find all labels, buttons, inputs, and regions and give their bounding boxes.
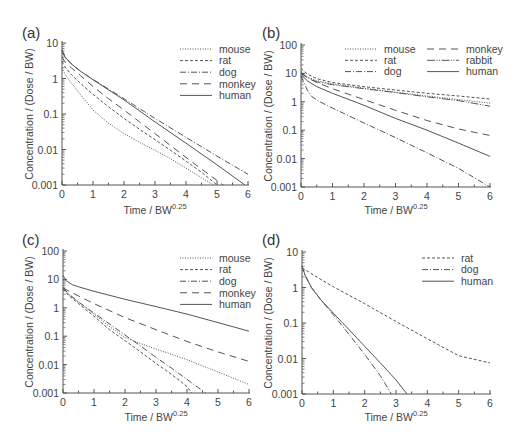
x-tick-label: 4 (184, 396, 190, 408)
curve-mouse (62, 68, 214, 185)
x-tick-label: 4 (183, 188, 189, 200)
axes-d: 01234561010.10.010.001 (272, 246, 493, 409)
legend-label-rat: rat (219, 54, 231, 66)
curve-human (301, 75, 490, 157)
x-tick-label: 0 (59, 188, 65, 200)
x-tick-label: 0 (298, 190, 304, 202)
x-tick-label: 1 (330, 190, 336, 202)
legend-label-human: human (466, 65, 498, 77)
y-tick-label: 0.001 (271, 181, 297, 193)
legend-label-monkey: monkey (466, 43, 504, 55)
legend-label-dog: dog (219, 66, 237, 78)
y-tick-label: 100 (41, 245, 59, 257)
x-tick-label: 2 (121, 188, 127, 200)
curve-dog (302, 266, 391, 394)
legend-label-rat: rat (461, 252, 473, 264)
y-tick-label: 0.1 (43, 108, 58, 120)
panel-label-d: (d) (262, 231, 280, 248)
legend-label-mouse: mouse (384, 43, 416, 55)
legend-label-dog: dog (219, 275, 237, 287)
legend-label-rabbit: rabbit (466, 54, 492, 66)
x-tick-label: 3 (393, 397, 399, 409)
y-tick-label: 0.001 (272, 388, 298, 400)
curve-dog (301, 76, 490, 187)
panel-label-a: (a) (22, 24, 40, 41)
y-tick-label: 0.1 (283, 317, 298, 329)
legend-label-human: human (461, 275, 493, 287)
x-tick-label: 5 (215, 396, 221, 408)
x-tick-label: 3 (393, 190, 399, 202)
y-tick-label: 10 (47, 273, 59, 285)
legend-label-rat: rat (219, 263, 231, 275)
y-tick-label: 0.1 (282, 124, 297, 136)
x-tick-label: 6 (246, 396, 252, 408)
x-axis-title-a: Time / BW0.25 (123, 202, 186, 216)
legend-label-monkey: monkey (219, 78, 257, 90)
y-tick-label: 0.001 (33, 387, 59, 399)
curve-monkey (301, 73, 490, 135)
x-tick-label: 0 (60, 396, 66, 408)
x-tick-label: 6 (487, 397, 493, 409)
y-tick-label: 1 (52, 73, 58, 85)
y-tick-label: 10 (285, 67, 297, 79)
y-tick-label: 1 (291, 96, 297, 108)
y-tick-label: 0.1 (44, 330, 59, 342)
curve-human (302, 266, 407, 394)
x-tick-label: 5 (214, 188, 220, 200)
y-tick-label: 100 (279, 39, 297, 51)
legend-label-human: human (219, 89, 251, 101)
x-tick-label: 3 (153, 396, 159, 408)
x-axis-title-b: Time / BW0.25 (364, 202, 427, 216)
legend-label-rat: rat (384, 54, 396, 66)
panel-b: (b) Concentration / (Dose / BW) Time / B… (262, 24, 504, 216)
legend-b: mouseratdogmonkeyrabbithuman (345, 43, 504, 78)
legend-label-human: human (219, 298, 251, 310)
y-axis-title-b: Concentration / (Dose / BW) (262, 50, 274, 181)
x-tick-label: 5 (456, 397, 462, 409)
x-axis-title-d: Time / BW0.25 (364, 409, 427, 423)
panel-label-c: (c) (22, 231, 40, 248)
y-tick-label: 1 (292, 282, 298, 294)
y-tick-label: 10 (286, 246, 298, 258)
x-tick-label: 2 (362, 397, 368, 409)
y-axis-title-a: Concentration / (Dose / BW) (23, 48, 35, 179)
y-tick-label: 1 (53, 302, 59, 314)
x-tick-label: 4 (424, 397, 430, 409)
x-tick-label: 6 (245, 188, 251, 200)
legend-a: mouseratdogmonkeyhuman (180, 43, 257, 101)
x-tick-label: 0 (299, 397, 305, 409)
x-tick-label: 2 (361, 190, 367, 202)
y-axis-title-d: Concentration / (Dose / BW) (262, 257, 274, 388)
panel-label-b: (b) (262, 24, 280, 41)
x-tick-label: 1 (90, 188, 96, 200)
curve-monkey (62, 57, 223, 185)
y-tick-label: 0.01 (38, 144, 59, 156)
curves-b (301, 68, 490, 187)
y-tick-label: 10 (46, 37, 58, 49)
x-tick-label: 1 (330, 397, 336, 409)
figure: (a) Concentration / (Dose / BW) Time / B… (0, 0, 513, 438)
legend-label-mouse: mouse (219, 43, 251, 55)
x-tick-label: 4 (424, 190, 430, 202)
panel-a: (a) Concentration / (Dose / BW) Time / B… (22, 24, 257, 216)
panel-c: (c) Concentration / (Dose / BW) Time / B… (22, 231, 257, 423)
x-tick-label: 2 (122, 396, 128, 408)
legend-label-mouse: mouse (219, 252, 251, 264)
legend-label-dog: dog (384, 65, 402, 77)
legend-d: ratdoghuman (422, 252, 493, 287)
y-tick-label: 0.001 (32, 179, 58, 191)
axes-b: 01234561001010.10.010.001 (271, 39, 493, 202)
legend-label-monkey: monkey (219, 287, 257, 299)
legend-label-dog: dog (461, 263, 479, 275)
x-tick-label: 5 (456, 190, 462, 202)
x-tick-label: 3 (152, 188, 158, 200)
curve-rat (62, 62, 217, 185)
panel-d: (d) Concentration / (Dose / BW) Time / B… (262, 231, 493, 423)
y-axis-title-c: Concentration / (Dose / BW) (23, 256, 35, 387)
x-axis-title-c: Time / BW0.25 (124, 409, 187, 423)
y-tick-label: 0.01 (278, 353, 299, 365)
y-tick-label: 0.01 (39, 359, 60, 371)
legend-c: mouseratdogmonkeyhuman (180, 252, 257, 310)
x-tick-label: 1 (91, 396, 97, 408)
y-tick-label: 0.01 (277, 153, 298, 165)
